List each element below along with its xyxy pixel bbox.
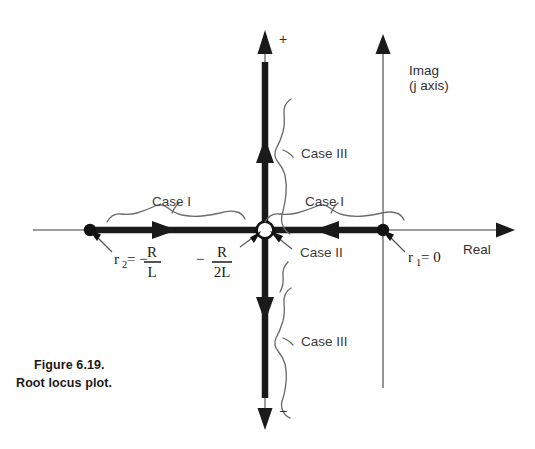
- leader-breakaway: [240, 231, 261, 247]
- case3-bottom-label: Case III: [301, 334, 348, 349]
- imag-axis-label-line2: (j axis): [409, 78, 449, 93]
- figure-caption: Figure 6.19. Root locus plot.: [34, 356, 254, 392]
- figure-caption-title: Root locus plot.: [16, 374, 254, 392]
- real-axis-arrowhead: [496, 223, 515, 238]
- case1-left-label: Case I: [152, 194, 191, 209]
- brace-case3-top-tip: [283, 150, 293, 157]
- pole-r2-label: r 2 = − R L: [114, 244, 161, 280]
- vertical-guide-bottom: [258, 396, 273, 430]
- case3-top-label: Case III: [301, 146, 348, 161]
- breakaway-numerator: R: [217, 244, 227, 260]
- breakaway-point-marker: [257, 222, 274, 239]
- locus-left-arrowhead: [152, 221, 177, 239]
- locus-branch-upper-vertical: [256, 62, 274, 230]
- r1-variable: r: [408, 249, 413, 265]
- pole-r1-label: r 1 = 0: [408, 249, 441, 268]
- negative-sign-label: −: [279, 403, 287, 419]
- locus-right-arrowhead: [314, 221, 339, 239]
- r2-denominator: L: [147, 264, 156, 280]
- locus-upper-arrowhead: [256, 138, 274, 163]
- imag-axis-label-line1: Imag: [409, 63, 439, 78]
- locus-lower-arrowhead: [256, 297, 274, 322]
- locus-branch-left-real: [90, 221, 265, 239]
- r2-variable: r: [114, 251, 119, 267]
- vertical-guide-top: [258, 30, 273, 66]
- leader-r1: [382, 230, 405, 252]
- brace-case3-bottom-tip: [283, 338, 293, 345]
- case1-right-label: Case I: [305, 194, 344, 209]
- figure-caption-number: Figure 6.19.: [34, 356, 254, 374]
- breakaway-label: − R 2L: [196, 244, 232, 280]
- locus-branch-lower-vertical: [256, 230, 274, 398]
- positive-sign-label: +: [279, 31, 287, 47]
- real-axis-label: Real: [463, 242, 491, 257]
- brace-case2: [280, 262, 288, 292]
- root-locus-figure: Imag (j axis) Real + − Case I Case I Cas…: [0, 0, 535, 449]
- breakaway-minus-sign: −: [196, 251, 204, 267]
- vertical-axis-bottom-arrowhead: [258, 408, 273, 430]
- r2-equals-minus: = −: [127, 251, 148, 267]
- leader-r2: [89, 230, 112, 252]
- case2-label: Case II: [300, 245, 343, 260]
- breakaway-denominator: 2L: [214, 264, 231, 280]
- vertical-axis-top-arrowhead: [258, 30, 273, 54]
- imag-axis: [376, 34, 391, 388]
- brace-case3-bottom: [275, 288, 291, 418]
- r2-numerator: R: [147, 244, 157, 260]
- r1-value: = 0: [421, 249, 441, 265]
- imag-axis-arrowhead: [376, 34, 391, 54]
